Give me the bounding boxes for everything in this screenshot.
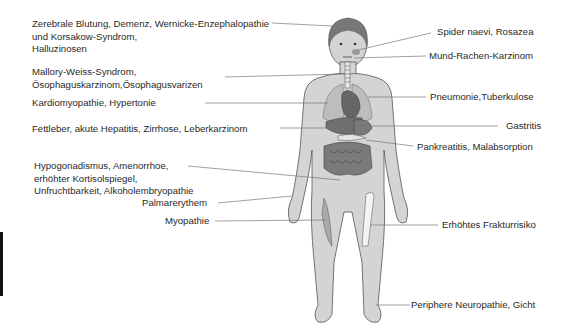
label-line: Zerebrale Blutung, Demenz, Wernicke-Enze…	[32, 18, 269, 31]
label-line: Periphere Neuropathie, Gicht	[411, 299, 535, 312]
label-line: Myopathie	[165, 215, 209, 228]
label-line: und Korsakow-Syndrom,	[32, 31, 269, 44]
label-heart: Kardiomyopathie, Hypertonie	[32, 97, 156, 110]
label-line: Gastritis	[506, 120, 541, 133]
label-esophagus: Mallory-Weiss-Syndrom, Ösophaguskarzinom…	[32, 66, 203, 91]
label-line: Palmarerythem	[142, 197, 207, 210]
intestines	[324, 142, 372, 175]
label-reproductive: Hypogonadismus, Amenorrhoe, erhöhter Kor…	[34, 160, 193, 198]
label-line: Halluzinosen	[32, 43, 269, 56]
label-muscle: Myopathie	[165, 215, 209, 228]
label-line: Mund-Rachen-Karzinom	[429, 50, 533, 63]
label-line: Unfruchtbarkeit, Alkoholembryopathie	[34, 185, 193, 198]
label-mouth: Mund-Rachen-Karzinom	[429, 50, 533, 63]
label-line: Pneumonie,Tuberkulose	[430, 91, 534, 104]
label-nerves: Periphere Neuropathie, Gicht	[411, 299, 535, 312]
label-pancreas: Pankreatitis, Malabsorption	[417, 141, 533, 154]
label-bone: Erhöhtes Frakturrisiko	[442, 219, 536, 232]
label-line: Fettleber, akute Hepatitis, Zirrhose, Le…	[32, 123, 247, 136]
label-skin: Spider naevi, Rosazea	[437, 26, 534, 39]
label-liver: Fettleber, akute Hepatitis, Zirrhose, Le…	[32, 123, 247, 136]
label-line: Spider naevi, Rosazea	[437, 26, 534, 39]
label-line: Ösophaguskarzinom,Ösophagusvarizen	[32, 79, 203, 92]
label-line: Hypogonadismus, Amenorrhoe,	[34, 160, 193, 173]
label-line: Kardiomyopathie, Hypertonie	[32, 97, 156, 110]
label-line: erhöhter Kortisolspiegel,	[34, 173, 193, 186]
label-line: Erhöhtes Frakturrisiko	[442, 219, 536, 232]
label-lung: Pneumonie,Tuberkulose	[430, 91, 534, 104]
label-palm: Palmarerythem	[142, 197, 207, 210]
label-line: Pankreatitis, Malabsorption	[417, 141, 533, 154]
label-stomach: Gastritis	[506, 120, 541, 133]
label-line: Mallory-Weiss-Syndrom,	[32, 66, 203, 79]
label-brain: Zerebrale Blutung, Demenz, Wernicke-Enze…	[32, 18, 269, 56]
